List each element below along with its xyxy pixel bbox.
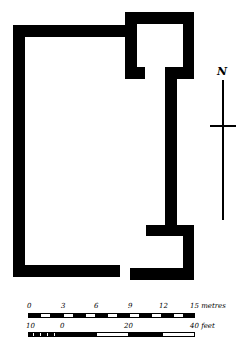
scale-tick-label: 10 [26, 323, 35, 330]
east-wall [165, 67, 177, 232]
tower-south-cap [165, 67, 194, 79]
west-wall [13, 25, 25, 277]
annex-east-wall [183, 225, 194, 280]
scale-end-label: 40 feet [190, 323, 215, 330]
north-arrow-crossbar [210, 125, 236, 127]
scale-tick-label: 0 [60, 323, 64, 330]
north-wall [13, 25, 137, 37]
north-label: N [217, 65, 227, 78]
tower-west-stub [125, 67, 145, 79]
south-wall-west [13, 265, 120, 277]
scale-tick-label: 3 [61, 303, 65, 310]
north-arrow-shaft [222, 80, 224, 220]
scale-tick-label: 20 [124, 323, 133, 330]
scale-end-label: 15 metres [190, 303, 226, 310]
scale-tick-label: 12 [159, 303, 168, 310]
scale-tick-label: 6 [94, 303, 98, 310]
scale-tick-label: 9 [128, 303, 132, 310]
scale-tick-label: 0 [27, 303, 31, 310]
